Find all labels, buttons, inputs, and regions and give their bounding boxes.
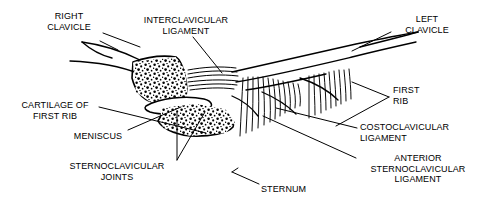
label-costoclavicular-ligament: COSTOCLAVICULAR LIGAMENT <box>360 122 478 143</box>
label-anterior-sternoclavicular-ligament: ANTERIOR STERNOCLAVICULAR LIGAMENT <box>358 153 478 185</box>
interclavicular-ligament-fibers <box>188 67 238 90</box>
leader-left-clavicle <box>352 32 391 51</box>
leader-costoclavicular-ligament <box>276 108 357 128</box>
label-first-rib: FIRST RIB <box>393 85 463 106</box>
leader-first-rib-a <box>352 82 389 97</box>
label-sternum: STERNUM <box>261 184 331 195</box>
label-sternoclavicular-joints: STERNOCLAVICULAR JOINTS <box>56 161 178 182</box>
leader-sternum-b <box>232 168 238 172</box>
label-meniscus: MENISCUS <box>68 131 128 142</box>
leader-sternum <box>232 172 259 184</box>
label-left-clavicle: LEFT CLAVICLE <box>389 14 465 35</box>
label-interclavicular-ligament: INTERCLAVICULAR LIGAMENT <box>131 15 241 36</box>
figure-canvas: RIGHT CLAVICLE INTERCLAVICULAR LIGAMENT … <box>0 0 478 211</box>
left-side-bones <box>232 32 418 116</box>
label-right-clavicle: RIGHT CLAVICLE <box>30 11 108 32</box>
label-cartilage-of-first-rib: CARTILAGE OF FIRST RIB <box>9 100 101 121</box>
